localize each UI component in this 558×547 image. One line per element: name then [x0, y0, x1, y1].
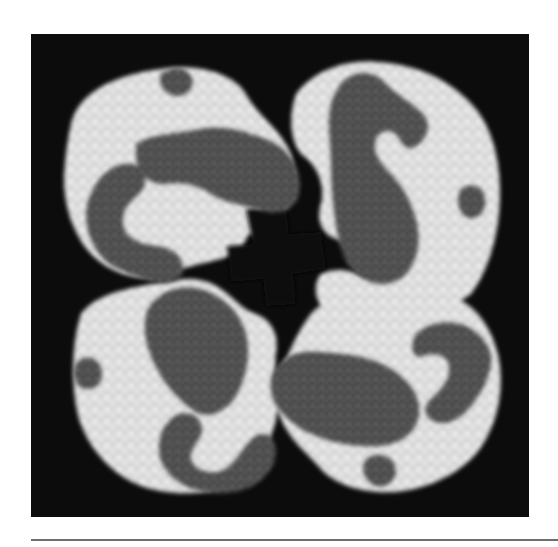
molecular-structure-image [31, 34, 529, 517]
molecule-rendering [31, 34, 529, 517]
horizontal-rule [31, 539, 558, 541]
